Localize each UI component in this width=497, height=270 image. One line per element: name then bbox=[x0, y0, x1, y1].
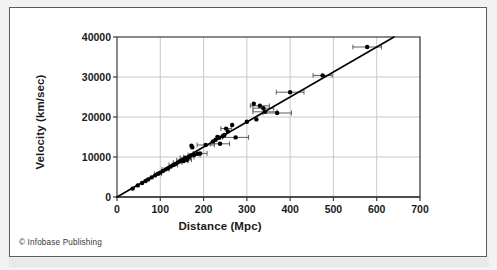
data-point-marker bbox=[288, 90, 292, 94]
x-tick-label: 100 bbox=[140, 203, 180, 215]
x-tick-label: 300 bbox=[227, 203, 267, 215]
y-axis-title: Velocity (km/sec) bbox=[34, 42, 46, 202]
data-point-marker bbox=[204, 143, 208, 147]
data-point-marker bbox=[230, 123, 234, 127]
x-tick-label: 700 bbox=[400, 203, 440, 215]
data-point-marker bbox=[136, 183, 140, 187]
axis-tickmarks bbox=[113, 37, 420, 201]
x-tick-label: 500 bbox=[313, 203, 353, 215]
data-point-marker bbox=[252, 102, 256, 106]
chart-panel: 010000200003000040000 010020030040050060… bbox=[9, 7, 487, 257]
y-tick-label: 30000 bbox=[55, 71, 111, 83]
data-point-marker bbox=[254, 117, 258, 121]
data-point-marker bbox=[226, 129, 230, 133]
bottom-shadow-strip bbox=[9, 258, 489, 267]
copyright-notice: © Infobase Publishing bbox=[19, 238, 102, 247]
y-tick-label: 40000 bbox=[55, 31, 111, 43]
data-point-marker bbox=[222, 133, 226, 137]
data-point-marker bbox=[245, 120, 249, 124]
x-tick-label: 600 bbox=[357, 203, 397, 215]
data-point-marker bbox=[218, 142, 222, 146]
x-tick-label: 0 bbox=[97, 203, 137, 215]
figure-root: 010000200003000040000 010020030040050060… bbox=[0, 0, 497, 270]
chart-area: 010000200003000040000 010020030040050060… bbox=[10, 8, 488, 258]
data-point-marker bbox=[233, 135, 237, 139]
x-tick-label: 400 bbox=[270, 203, 310, 215]
y-tick-label: 10000 bbox=[55, 151, 111, 163]
data-point-marker bbox=[275, 111, 279, 115]
x-axis-title: Distance (Mpc) bbox=[10, 220, 430, 232]
y-tick-label: 20000 bbox=[55, 111, 111, 123]
data-point-marker bbox=[365, 45, 369, 49]
data-point-marker bbox=[263, 110, 267, 114]
y-tick-label: 0 bbox=[55, 191, 111, 203]
data-point-marker bbox=[190, 145, 194, 149]
x-tick-label: 200 bbox=[184, 203, 224, 215]
data-point-marker bbox=[130, 186, 134, 190]
data-point-marker bbox=[198, 151, 202, 155]
data-point-marker bbox=[320, 73, 324, 77]
